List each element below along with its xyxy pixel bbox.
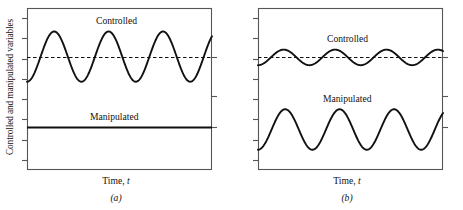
panel-b-x-axis-label: Time, t bbox=[231, 175, 463, 186]
panel-b: Controlled and manipulated variables Con… bbox=[231, 0, 463, 210]
series-controlled-curve bbox=[27, 31, 212, 81]
panel-a: Controlled and manipulated variables Con… bbox=[0, 0, 232, 210]
panel-b-controlled-label: Controlled bbox=[327, 33, 368, 44]
series-manipulated-curve bbox=[258, 109, 443, 150]
panel-b-x-axis-label-variable: t bbox=[358, 175, 361, 186]
panel-a-subcaption: (a) bbox=[0, 192, 232, 203]
panel-b-subcaption: (b) bbox=[231, 192, 463, 203]
figure-controlled-manipulated: Controlled and manipulated variables Con… bbox=[0, 0, 463, 210]
panel-b-manipulated-label: Manipulated bbox=[323, 93, 372, 104]
panel-a-plot-area bbox=[0, 0, 232, 175]
panel-a-manipulated-label: Manipulated bbox=[90, 111, 139, 122]
panel-a-x-axis-label-text: Time, bbox=[102, 175, 124, 186]
plot-frame bbox=[28, 9, 212, 170]
panel-a-controlled-label: Controlled bbox=[96, 15, 137, 26]
panel-a-x-axis-label-variable: t bbox=[127, 175, 130, 186]
panel-a-x-axis-label: Time, t bbox=[0, 175, 232, 186]
panel-b-x-axis-label-text: Time, bbox=[333, 175, 355, 186]
panel-b-plot-area bbox=[231, 0, 463, 175]
